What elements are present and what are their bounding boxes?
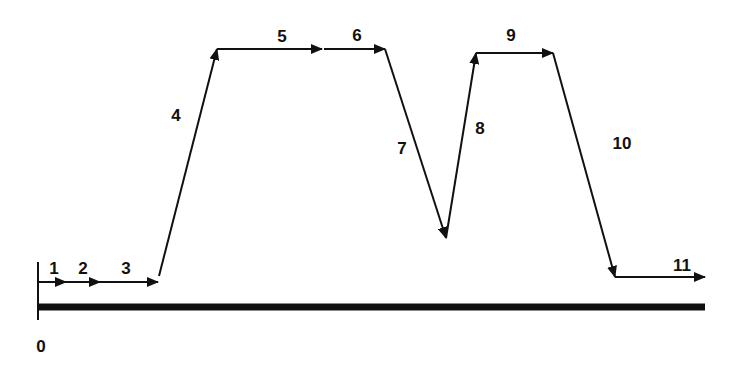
segment-label-11: 11	[673, 257, 691, 274]
segment-arrow-8	[446, 53, 476, 238]
segment-label-2: 2	[78, 260, 87, 277]
segment-label-8: 8	[475, 120, 484, 137]
segment-arrows	[38, 49, 705, 282]
segment-label-1: 1	[49, 260, 58, 277]
segment-label-4: 4	[171, 107, 180, 124]
segment-arrow-10	[553, 53, 615, 277]
segment-arrow-7	[385, 49, 446, 238]
segment-label-9: 9	[506, 27, 515, 44]
segment-label-10: 10	[613, 135, 632, 152]
segment-label-5: 5	[277, 28, 286, 45]
segment-label-6: 6	[352, 27, 361, 44]
segment-label-7: 7	[397, 140, 406, 157]
origin-label: 0	[36, 338, 45, 355]
segment-arrow-4	[159, 49, 217, 276]
process-profile-diagram	[0, 0, 731, 369]
segment-label-3: 3	[121, 260, 130, 277]
